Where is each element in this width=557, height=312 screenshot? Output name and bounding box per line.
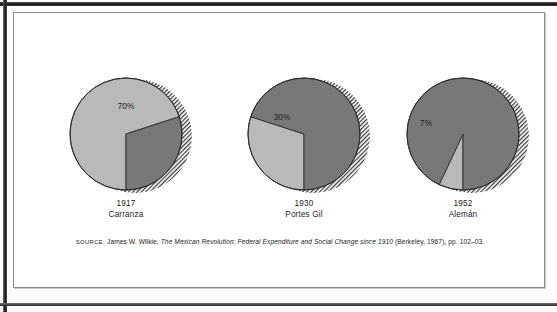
pie-caption-name: Alemán [378, 210, 548, 221]
source-author: James W. Wilkie, [107, 238, 159, 245]
pie-1930-percent-label: 30% [274, 113, 290, 122]
scanned-page: 70%30%7% 1917 Carranza 1930 Portes Gil 1… [0, 0, 557, 312]
page-edge-left [3, 0, 7, 312]
pie-1917-percent-label: 70% [118, 102, 134, 111]
source-publication: (Berkeley, 1967), pp. 102–03. [395, 238, 484, 245]
pie-caption-name: Carranza [41, 210, 211, 221]
source-note: SOURCE: James W. Wilkie, The Mexican Rev… [14, 238, 546, 245]
pie-1952-percent-label: 7% [420, 119, 432, 128]
pie-caption-1930: 1930 Portes Gil [219, 199, 389, 220]
pie-chart-group: 70%30%7% [14, 13, 546, 289]
figure-frame: 70%30%7% 1917 Carranza 1930 Portes Gil 1… [13, 12, 545, 288]
source-label: SOURCE: [76, 239, 105, 245]
source-title: The Mexican Revolution: Federal Expendit… [161, 238, 393, 245]
page-edge-top [0, 2, 557, 6]
pie-caption-1952: 1952 Alemán [378, 199, 548, 220]
pie-1952-slice-remainder [407, 78, 519, 190]
pie-caption-name: Portes Gil [219, 210, 389, 221]
pie-caption-year: 1952 [378, 199, 548, 210]
pie-caption-year: 1930 [219, 199, 389, 210]
page-edge-bottom [0, 303, 557, 306]
pie-caption-year: 1917 [41, 199, 211, 210]
pie-caption-1917: 1917 Carranza [41, 199, 211, 220]
